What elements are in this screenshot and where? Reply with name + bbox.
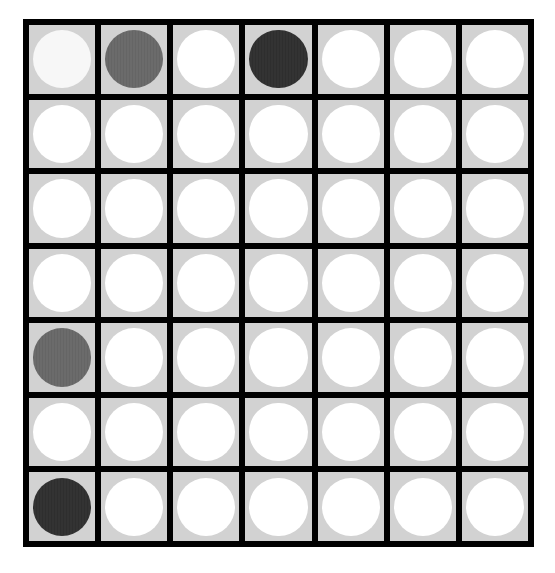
empty-slot-icon <box>249 403 307 461</box>
light-piece-icon <box>33 30 91 88</box>
empty-slot-icon <box>466 478 524 536</box>
empty-slot-icon <box>466 328 524 386</box>
board-cell-r2-c2[interactable] <box>173 174 239 243</box>
board-cell-r6-c0[interactable] <box>29 472 95 541</box>
empty-slot-icon <box>322 478 380 536</box>
empty-slot-icon <box>177 328 235 386</box>
board-cell-r4-c6[interactable] <box>462 323 528 392</box>
board-cell-r0-c3[interactable] <box>245 25 311 94</box>
board-cell-r5-c0[interactable] <box>29 398 95 467</box>
empty-slot-icon <box>33 105 91 163</box>
empty-slot-icon <box>249 105 307 163</box>
board-cell-r5-c4[interactable] <box>318 398 384 467</box>
board-cell-r1-c1[interactable] <box>101 100 167 169</box>
empty-slot-icon <box>249 478 307 536</box>
board-cell-r4-c0[interactable] <box>29 323 95 392</box>
empty-slot-icon <box>177 105 235 163</box>
empty-slot-icon <box>394 328 452 386</box>
empty-slot-icon <box>322 179 380 237</box>
dark-piece-icon <box>249 30 307 88</box>
board-cell-r4-c3[interactable] <box>245 323 311 392</box>
board-cell-r2-c0[interactable] <box>29 174 95 243</box>
empty-slot-icon <box>177 254 235 312</box>
board-cell-r3-c1[interactable] <box>101 249 167 318</box>
board-cell-r1-c2[interactable] <box>173 100 239 169</box>
empty-slot-icon <box>394 478 452 536</box>
empty-slot-icon <box>249 179 307 237</box>
board-cell-r5-c3[interactable] <box>245 398 311 467</box>
empty-slot-icon <box>105 254 163 312</box>
empty-slot-icon <box>105 478 163 536</box>
empty-slot-icon <box>394 254 452 312</box>
empty-slot-icon <box>249 254 307 312</box>
board-cell-r4-c4[interactable] <box>318 323 384 392</box>
board-cell-r2-c3[interactable] <box>245 174 311 243</box>
board-cell-r3-c5[interactable] <box>390 249 456 318</box>
board-cell-r2-c6[interactable] <box>462 174 528 243</box>
board-cell-r1-c6[interactable] <box>462 100 528 169</box>
gray-piece-icon <box>105 30 163 88</box>
board-cell-r6-c1[interactable] <box>101 472 167 541</box>
empty-slot-icon <box>466 403 524 461</box>
board-cell-r5-c6[interactable] <box>462 398 528 467</box>
empty-slot-icon <box>394 179 452 237</box>
empty-slot-icon <box>105 105 163 163</box>
empty-slot-icon <box>466 254 524 312</box>
board-cell-r3-c6[interactable] <box>462 249 528 318</box>
board-cell-r6-c3[interactable] <box>245 472 311 541</box>
empty-slot-icon <box>466 179 524 237</box>
board-cell-r6-c4[interactable] <box>318 472 384 541</box>
board-cell-r5-c1[interactable] <box>101 398 167 467</box>
empty-slot-icon <box>177 403 235 461</box>
empty-slot-icon <box>322 328 380 386</box>
board-cell-r2-c5[interactable] <box>390 174 456 243</box>
board-cell-r3-c0[interactable] <box>29 249 95 318</box>
board-cell-r3-c4[interactable] <box>318 249 384 318</box>
board-cell-r1-c5[interactable] <box>390 100 456 169</box>
board-cell-r3-c2[interactable] <box>173 249 239 318</box>
board-cell-r0-c4[interactable] <box>318 25 384 94</box>
empty-slot-icon <box>33 403 91 461</box>
empty-slot-icon <box>394 30 452 88</box>
board-cell-r2-c4[interactable] <box>318 174 384 243</box>
board-cell-r6-c2[interactable] <box>173 472 239 541</box>
empty-slot-icon <box>33 179 91 237</box>
board-cell-r1-c3[interactable] <box>245 100 311 169</box>
board-cell-r4-c2[interactable] <box>173 323 239 392</box>
empty-slot-icon <box>322 105 380 163</box>
board-cell-r0-c0[interactable] <box>29 25 95 94</box>
empty-slot-icon <box>33 254 91 312</box>
board-cell-r5-c2[interactable] <box>173 398 239 467</box>
board-cell-r2-c1[interactable] <box>101 174 167 243</box>
empty-slot-icon <box>177 30 235 88</box>
empty-slot-icon <box>177 179 235 237</box>
board-cell-r1-c4[interactable] <box>318 100 384 169</box>
board-cell-r5-c5[interactable] <box>390 398 456 467</box>
empty-slot-icon <box>466 30 524 88</box>
board-cell-r0-c1[interactable] <box>101 25 167 94</box>
gray-piece-icon <box>33 328 91 386</box>
board-cell-r4-c1[interactable] <box>101 323 167 392</box>
board-cell-r6-c6[interactable] <box>462 472 528 541</box>
game-board <box>23 19 534 547</box>
board-cell-r0-c5[interactable] <box>390 25 456 94</box>
empty-slot-icon <box>466 105 524 163</box>
board-cell-r0-c6[interactable] <box>462 25 528 94</box>
empty-slot-icon <box>105 179 163 237</box>
board-cell-r1-c0[interactable] <box>29 100 95 169</box>
empty-slot-icon <box>394 105 452 163</box>
board-cell-r3-c3[interactable] <box>245 249 311 318</box>
empty-slot-icon <box>177 478 235 536</box>
board-cell-r6-c5[interactable] <box>390 472 456 541</box>
board-cell-r0-c2[interactable] <box>173 25 239 94</box>
empty-slot-icon <box>322 403 380 461</box>
empty-slot-icon <box>322 254 380 312</box>
empty-slot-icon <box>322 30 380 88</box>
dark-piece-icon <box>33 478 91 536</box>
empty-slot-icon <box>394 403 452 461</box>
board-cell-r4-c5[interactable] <box>390 323 456 392</box>
empty-slot-icon <box>249 328 307 386</box>
empty-slot-icon <box>105 403 163 461</box>
empty-slot-icon <box>105 328 163 386</box>
